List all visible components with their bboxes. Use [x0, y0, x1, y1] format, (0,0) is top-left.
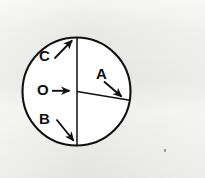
label-diameter-b: B: [39, 111, 50, 126]
label-radius-a: A: [96, 66, 107, 81]
figure-canvas: C A B O: [0, 0, 205, 178]
circle-diagram: [0, 0, 205, 178]
label-center-o: O: [37, 82, 49, 97]
label-arc-c: C: [39, 48, 50, 63]
paper-speck: [164, 149, 166, 152]
